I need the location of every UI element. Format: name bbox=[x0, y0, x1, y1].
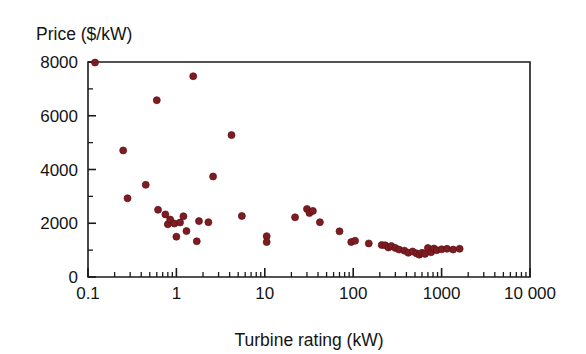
y-axis-title: Price ($/kW) bbox=[36, 24, 132, 44]
x-tick-label: 1 bbox=[172, 284, 181, 303]
data-point bbox=[292, 214, 299, 221]
data-point bbox=[92, 59, 99, 66]
x-tick-label: 10 000 bbox=[504, 284, 556, 303]
data-points-layer bbox=[92, 59, 464, 258]
y-axis-ticks bbox=[88, 62, 96, 277]
data-point bbox=[336, 228, 343, 235]
y-axis-tick-labels: 02000400060008000 bbox=[40, 53, 78, 287]
x-tick-label: 10 bbox=[255, 284, 274, 303]
data-point bbox=[365, 240, 372, 247]
data-point bbox=[193, 238, 200, 245]
data-point bbox=[316, 219, 323, 226]
data-point bbox=[352, 237, 359, 244]
x-axis-tick-labels: 0.1110100100010 000 bbox=[76, 284, 556, 303]
data-point bbox=[456, 245, 463, 252]
y-tick-label: 6000 bbox=[40, 107, 78, 126]
data-point bbox=[238, 212, 245, 219]
data-point bbox=[228, 132, 235, 139]
plot-border bbox=[88, 62, 530, 277]
data-point bbox=[153, 97, 160, 104]
data-point bbox=[173, 233, 180, 240]
y-tick-label: 4000 bbox=[40, 161, 78, 180]
x-tick-label: 100 bbox=[339, 284, 367, 303]
data-point bbox=[205, 219, 212, 226]
x-axis-title: Turbine rating (kW) bbox=[234, 330, 383, 350]
plot-frame bbox=[88, 62, 530, 277]
x-tick-label: 1000 bbox=[423, 284, 461, 303]
data-point bbox=[142, 181, 149, 188]
data-point bbox=[183, 228, 190, 235]
data-point bbox=[210, 173, 217, 180]
x-axis-ticks bbox=[88, 268, 530, 277]
y-tick-label: 2000 bbox=[40, 214, 78, 233]
data-point bbox=[124, 195, 131, 202]
data-point bbox=[309, 207, 316, 214]
x-tick-label: 0.1 bbox=[76, 284, 100, 303]
data-point bbox=[155, 206, 162, 213]
data-point bbox=[450, 246, 457, 253]
data-point bbox=[120, 147, 127, 154]
data-point bbox=[195, 218, 202, 225]
chart-figure: Price ($/kW) Turbine rating (kW) 0200040… bbox=[0, 0, 586, 354]
data-point bbox=[180, 213, 187, 220]
scatter-plot: Price ($/kW) Turbine rating (kW) 0200040… bbox=[0, 0, 586, 354]
data-point bbox=[190, 73, 197, 80]
y-tick-label: 8000 bbox=[40, 53, 78, 72]
data-point bbox=[263, 239, 270, 246]
